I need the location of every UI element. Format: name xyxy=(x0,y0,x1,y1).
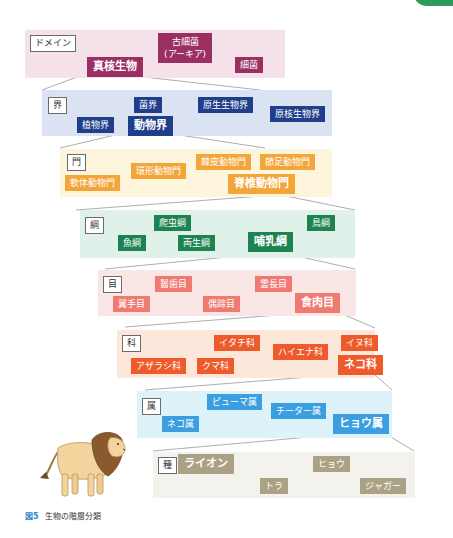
rank-label-order: 目 xyxy=(103,276,122,293)
taxon-rodentia: 齧歯目 xyxy=(155,276,192,292)
taxon-hyaenidae: ハイエナ科 xyxy=(273,344,328,360)
band-class: 綱 爬虫綱 鳥綱 魚綱 両生綱 哺乳綱 xyxy=(80,210,355,258)
band-species: 種 ライオン ヒョウ トラ ジャガー xyxy=(153,452,415,498)
taxon-puma: ピューマ属 xyxy=(207,394,262,410)
band-phylum: 門 棘皮動物門 節足動物門 環形動物門 軟体動物門 脊椎動物門 xyxy=(60,149,332,197)
taxon-tiger: トラ xyxy=(260,478,288,494)
rank-label-genus: 属 xyxy=(142,398,161,415)
figure-caption: 図5生物の階層分類 xyxy=(25,510,101,521)
taxon-artiodactyla: 偶蹄目 xyxy=(203,296,240,312)
taxon-eukaryota: 真核生物 xyxy=(87,57,143,77)
taxon-felis: ネコ属 xyxy=(162,416,199,432)
taxon-canidae: イヌ科 xyxy=(341,335,378,351)
rank-label-class: 綱 xyxy=(85,217,104,234)
taxon-jaguar: ジャガー xyxy=(360,478,406,494)
taxon-lion: ライオン xyxy=(178,454,234,474)
taxon-mollusca: 軟体動物門 xyxy=(65,175,120,191)
rank-label-kingdom: 界 xyxy=(48,97,67,114)
taxon-arthropoda: 節足動物門 xyxy=(260,154,315,170)
rank-label-species: 種 xyxy=(158,457,177,474)
taxon-animalia: 動物界 xyxy=(128,116,173,136)
figure-title: 生物の階層分類 xyxy=(45,512,101,521)
taxon-annelida: 環形動物門 xyxy=(131,163,186,179)
band-domain: ドメイン 真核生物 古細菌(アーキア) 細菌 xyxy=(25,30,285,78)
taxon-acinonyx: チーター属 xyxy=(271,403,326,419)
taxon-protista: 原生生物界 xyxy=(198,97,253,113)
taxon-amphibia: 両生綱 xyxy=(178,235,215,251)
taxon-plantae: 植物界 xyxy=(77,117,114,133)
taxon-panthera: ヒョウ属 xyxy=(333,414,389,434)
taxon-mammalia: 哺乳綱 xyxy=(248,232,293,252)
taxon-chiroptera: 翼手目 xyxy=(113,296,150,312)
taxon-primates: 霊長目 xyxy=(255,276,292,292)
band-order: 目 齧歯目 霊長目 翼手目 偶蹄目 食肉目 xyxy=(98,270,356,316)
taxon-mustelidae: イタチ科 xyxy=(214,335,260,351)
rank-label-domain: ドメイン xyxy=(30,35,76,52)
taxon-leopard: ヒョウ xyxy=(313,456,350,472)
taxon-archaea: 古細菌(アーキア) xyxy=(158,33,212,63)
taxon-ursidae: クマ科 xyxy=(197,358,234,374)
lion-illustration xyxy=(30,430,135,505)
taxon-phocidae: アザラシ科 xyxy=(131,358,186,374)
taxon-felidae: ネコ科 xyxy=(338,355,383,375)
band-family: 科 イタチ科 イヌ科 ハイエナ科 アザラシ科 クマ科 ネコ科 xyxy=(117,330,375,378)
section-tab xyxy=(413,0,453,6)
taxon-reptilia: 爬虫綱 xyxy=(154,215,191,231)
taxon-aves: 鳥綱 xyxy=(307,215,335,231)
figure-number: 図5 xyxy=(25,512,39,521)
taxon-archaea-label: 古細菌(アーキア) xyxy=(164,36,206,60)
taxon-fungi: 菌界 xyxy=(134,97,162,113)
taxon-echinodermata: 棘皮動物門 xyxy=(196,154,251,170)
rank-label-phylum: 門 xyxy=(67,154,86,171)
taxon-chordata: 脊椎動物門 xyxy=(228,174,295,194)
taxon-pisces: 魚綱 xyxy=(118,235,146,251)
rank-label-family: 科 xyxy=(122,335,141,352)
taxon-bacteria: 細菌 xyxy=(235,57,263,73)
taxon-monera: 原核生物界 xyxy=(270,106,325,122)
band-genus: 属 ピューマ属 チーター属 ネコ属 ヒョウ属 xyxy=(137,391,392,438)
taxon-carnivora: 食肉目 xyxy=(295,293,340,313)
band-kingdom: 界 菌界 原生生物界 原核生物界 植物界 動物界 xyxy=(42,90,332,136)
